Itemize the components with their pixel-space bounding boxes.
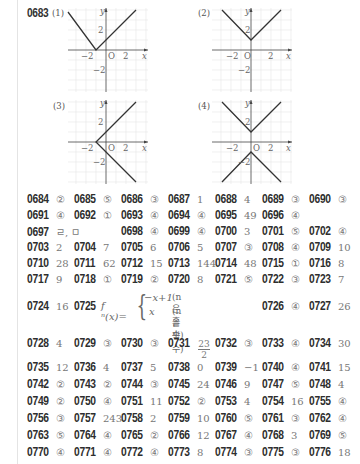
- problem-number: 0750: [74, 394, 97, 408]
- problem-number: 0730: [121, 336, 144, 350]
- problem-number: 0693: [121, 208, 144, 222]
- fraction-numerator: 23: [198, 339, 209, 349]
- svg-text:2: 2: [245, 117, 250, 127]
- answer-value: 49: [244, 210, 257, 221]
- fraction: 23 2: [198, 339, 210, 360]
- answer-value: ②: [56, 379, 65, 390]
- svg-text:O: O: [244, 51, 251, 61]
- answer-value: 16: [56, 301, 69, 312]
- answer-value: 15: [150, 258, 163, 269]
- problem-number: 0710: [27, 256, 50, 270]
- svg-text:−2: −2: [81, 143, 94, 153]
- answer-value: 16: [291, 396, 304, 407]
- answer-value: ④: [56, 210, 65, 221]
- answer-value: ③: [56, 413, 65, 424]
- problem-number: 0764: [74, 428, 97, 442]
- problem-number: 0771: [74, 445, 97, 459]
- answer-value: ②: [56, 194, 65, 205]
- problem-number: 0726: [262, 299, 285, 313]
- answer-value: ③: [244, 447, 253, 458]
- problem-number: 0770: [27, 445, 50, 459]
- problem-number: 0689: [262, 192, 285, 206]
- answer-value: ④: [291, 242, 300, 253]
- svg-text:−2: −2: [238, 157, 251, 167]
- answer-value: ②: [103, 379, 112, 390]
- answer-value: ④: [150, 447, 159, 458]
- problem-number: 0727: [309, 299, 332, 313]
- problem-number: 0718: [74, 272, 97, 286]
- answer-value: ③: [291, 194, 300, 205]
- answer-value: 26: [338, 301, 351, 312]
- problem-number: 0735: [27, 360, 50, 374]
- problem-number: 0752: [168, 394, 191, 408]
- svg-text:x: x: [142, 143, 147, 153]
- svg-text:y: y: [244, 98, 250, 108]
- problem-number: 0733: [262, 336, 285, 350]
- problem-number: 0755: [309, 394, 332, 408]
- problem-number: 0719: [121, 272, 144, 286]
- answer-value: 48: [244, 258, 257, 269]
- problem-number: 0773: [168, 445, 191, 459]
- problem-number: 0772: [121, 445, 144, 459]
- problem-number: 0687: [168, 192, 191, 206]
- svg-text:−2: −2: [93, 65, 106, 75]
- answer-value: 0: [197, 362, 203, 373]
- problem-number: 0775: [262, 445, 285, 459]
- problem-number: 0736: [74, 360, 97, 374]
- svg-text:y: y: [244, 6, 250, 16]
- answer-value: 62: [103, 258, 116, 269]
- answer-value: ③: [291, 413, 300, 424]
- answer-value: ③: [291, 447, 300, 458]
- answer-value: 144: [197, 258, 216, 269]
- problem-number: 0737: [121, 360, 144, 374]
- answer-value: ③: [150, 338, 159, 349]
- problem-number: 0731: [168, 336, 191, 350]
- problem-number: 0738: [168, 360, 191, 374]
- answer-value: 4: [56, 338, 62, 349]
- answer-value: 7: [103, 242, 109, 253]
- problem-number: 0723: [309, 272, 332, 286]
- answer-value: 30: [338, 338, 351, 349]
- problem-number: 0709: [309, 240, 332, 254]
- problem-number: 0685: [74, 192, 97, 206]
- problem-number: 0700: [215, 224, 238, 238]
- answer-value: 3: [291, 430, 297, 441]
- problem-number: 0711: [74, 256, 97, 270]
- problem-number: 0692: [74, 208, 97, 222]
- problem-number: 0722: [262, 272, 285, 286]
- svg-text:x: x: [286, 143, 291, 153]
- problem-number: 0753: [215, 394, 238, 408]
- answer-value: 24: [197, 379, 210, 390]
- problem-number: 0763: [27, 428, 50, 442]
- problem-number: 0694: [168, 208, 191, 222]
- fraction-denominator: 2: [201, 350, 207, 360]
- problem-number: 0691: [27, 208, 50, 222]
- problem-number: 0704: [74, 240, 97, 254]
- problem-number: 0769: [309, 428, 332, 442]
- answer-value: 3: [244, 226, 250, 237]
- answer-value: ④: [338, 226, 347, 237]
- svg-text:−2: −2: [81, 51, 94, 61]
- problem-number: 0715: [262, 256, 285, 270]
- problem-number: 0762: [309, 411, 332, 425]
- answer-value: −1: [244, 362, 259, 373]
- problem-number: 0739: [215, 360, 238, 374]
- answer-value: ⑤: [291, 379, 300, 390]
- answer-value: 10: [338, 242, 351, 253]
- answer-value: 5: [150, 362, 156, 373]
- svg-text:−2: −2: [226, 143, 239, 153]
- problem-number: 0768: [262, 428, 285, 442]
- graph-1: −22 O 2−2 x y: [68, 8, 148, 92]
- problem-number: 0686: [121, 192, 144, 206]
- answer-value: ④: [291, 338, 300, 349]
- answer-value: ④: [291, 301, 300, 312]
- answer-value: ①: [103, 274, 112, 285]
- answer-value: 2: [56, 242, 62, 253]
- problem-number: 0767: [215, 428, 238, 442]
- problem-number: 0757: [74, 411, 97, 425]
- answer-value: ㄹ, ㅁ: [56, 224, 80, 239]
- problem-number: 0761: [262, 411, 285, 425]
- svg-text:O: O: [108, 143, 115, 153]
- problem-number: 0696: [262, 208, 285, 222]
- problem-number: 0688: [215, 192, 238, 206]
